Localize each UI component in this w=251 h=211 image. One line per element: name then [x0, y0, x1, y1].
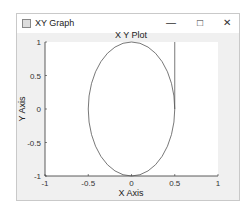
svg-text:-1: -1 — [41, 179, 49, 188]
x-axis-label: X Axis — [118, 188, 144, 198]
svg-text:1: 1 — [37, 38, 42, 47]
svg-text:0: 0 — [37, 105, 42, 114]
svg-text:0.5: 0.5 — [30, 72, 42, 81]
svg-text:-1: -1 — [34, 172, 42, 181]
xy-plot: X Y Plot -1-0.500.51 -1-0.500.51 X Axis … — [0, 0, 251, 211]
axes-area — [45, 42, 218, 176]
svg-text:0.5: 0.5 — [169, 179, 181, 188]
y-tick-labels: -1-0.500.51 — [27, 38, 47, 181]
svg-text:1: 1 — [216, 179, 221, 188]
y-axis-label: Y Axis — [17, 96, 27, 121]
svg-text:-0.5: -0.5 — [81, 179, 95, 188]
svg-text:-0.5: -0.5 — [27, 139, 41, 148]
svg-text:0: 0 — [129, 179, 134, 188]
chart-title: X Y Plot — [115, 30, 148, 40]
